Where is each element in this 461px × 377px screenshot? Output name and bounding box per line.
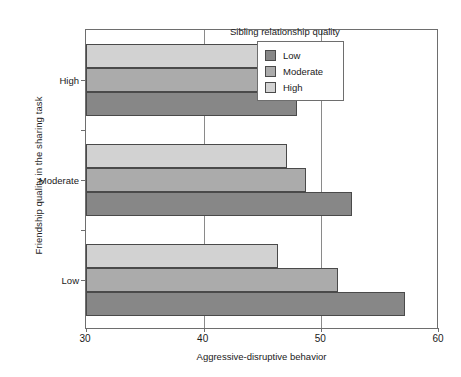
legend-label-moderate: Moderate [283,66,323,77]
legend-swatch-low [265,50,276,61]
x-axis-tick-label: 30 [79,333,90,344]
legend-swatch-moderate [265,66,276,77]
legend-label-low: Low [283,50,300,61]
legend-item: High [265,79,337,95]
legend-title: Sibling relationship quality [230,26,340,37]
x-axis-title: Aggressive-disruptive behavior [85,351,438,362]
y-axis-tick [81,180,86,181]
bar-low-low [86,292,405,316]
y-axis-minor-tick [81,130,86,131]
y-axis-category-label-moderate: Moderate [39,175,79,186]
y-axis-tick [81,280,86,281]
y-axis-category-label-high: High [59,75,79,86]
legend-box: Low Moderate High [257,41,344,101]
legend-swatch-high [265,82,276,93]
bar-moderate-low [86,192,352,216]
x-axis-tick [438,328,439,332]
bar-moderate-high [86,144,287,168]
x-axis-tick [86,328,87,332]
y-axis-category-label-low: Low [62,275,79,286]
legend-item: Low [265,47,337,63]
legend-label-high: High [283,82,303,93]
x-axis-tick-label: 50 [315,333,326,344]
y-axis-tick [81,80,86,81]
y-axis-minor-tick [81,230,86,231]
x-axis-tick-label: 60 [432,333,443,344]
bar-chart-figure: Friendship quality in the sharing task H… [0,0,461,377]
bar-moderate-moderate [86,168,306,192]
legend-item: Moderate [265,63,337,79]
bar-low-moderate [86,268,338,292]
x-axis-tick [204,328,205,332]
bar-low-high [86,244,278,268]
x-axis-tick-label: 40 [197,333,208,344]
x-axis-tick [321,328,322,332]
